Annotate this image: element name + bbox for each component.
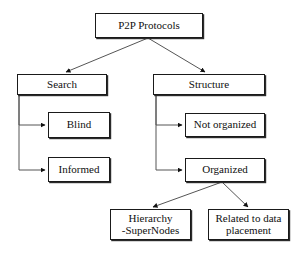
node-label: Informed xyxy=(57,164,102,176)
node-label: P2P Protocols xyxy=(116,20,182,32)
node-label: Organized xyxy=(200,164,250,176)
node-label: Related to data placement xyxy=(214,213,284,236)
node-structure[interactable]: Structure xyxy=(153,74,265,95)
edge-root-to-structure xyxy=(148,38,205,72)
node-blind[interactable]: Blind xyxy=(48,112,110,138)
node-informed[interactable]: Informed xyxy=(48,157,110,182)
node-search[interactable]: Search xyxy=(17,74,107,95)
node-label: Search xyxy=(45,79,79,91)
node-p2p-protocols[interactable]: P2P Protocols xyxy=(95,13,203,38)
edge-organized-to-related xyxy=(222,182,248,207)
node-related-to-data-placement[interactable]: Related to data placement xyxy=(208,209,289,240)
edge-root-to-search xyxy=(66,38,148,72)
edge-search-to-informed xyxy=(19,95,45,170)
edge-search-to-blind xyxy=(19,95,45,125)
diagram-canvas: P2P Protocols Search Structure Blind Not… xyxy=(0,0,307,253)
node-hierarchy-supernodes[interactable]: Hierarchy -SuperNodes xyxy=(110,209,191,240)
edge-structure-to-organized xyxy=(156,95,182,170)
node-organized[interactable]: Organized xyxy=(185,158,265,182)
node-label: Blind xyxy=(65,119,93,131)
edge-structure-to-not-organized xyxy=(156,95,182,125)
node-label: Structure xyxy=(187,79,231,91)
node-not-organized[interactable]: Not organized xyxy=(185,113,265,137)
node-label: Not organized xyxy=(192,119,258,131)
node-label: Hierarchy -SuperNodes xyxy=(120,213,181,236)
edge-organized-to-hierarchy xyxy=(153,182,222,207)
